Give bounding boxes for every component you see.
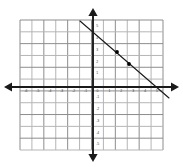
y-tick-label: -2 [96, 107, 99, 111]
y-tick-label: 3 [96, 48, 98, 52]
x-tick-label: -6 [24, 89, 27, 93]
x-tick-label: 1 [108, 89, 110, 93]
x-tick-label: -2 [72, 89, 75, 93]
x-tick-label: 4 [144, 89, 146, 93]
coordinate-graph-figure: -6-5-4-3-2-1012345 54321-1-2-3-4-5 [0, 0, 183, 167]
x-tick-label: -4 [48, 89, 51, 93]
y-tick-label: -5 [96, 142, 99, 146]
point-marker [127, 62, 131, 66]
x-tick-label: 0 [97, 89, 99, 93]
y-tick-label: 5 [96, 24, 98, 28]
y-tick-label: -1 [96, 95, 99, 99]
graph-canvas: -6-5-4-3-2-1012345 54321-1-2-3-4-5 [0, 0, 183, 167]
point-marker [115, 50, 119, 54]
y-tick-label: -4 [96, 131, 99, 135]
x-tick-label: 3 [132, 89, 134, 93]
x-tick-label: -5 [36, 89, 39, 93]
x-tick-label: -1 [84, 89, 87, 93]
y-tick-label: 1 [96, 71, 98, 75]
x-tick-label: 2 [120, 89, 122, 93]
y-tick-label: -3 [96, 119, 99, 123]
x-tick-label: -3 [60, 89, 63, 93]
y-tick-label: 2 [96, 60, 98, 64]
x-tick-label: 5 [156, 89, 158, 93]
